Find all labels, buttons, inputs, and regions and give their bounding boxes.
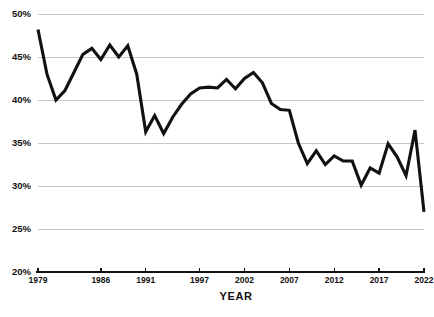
x-axis-tick-label: 1979 — [29, 275, 48, 285]
x-axis-tick-label: 1997 — [190, 275, 209, 285]
x-axis-tick-label: 1991 — [136, 275, 155, 285]
y-axis-tick-label: 50% — [12, 8, 32, 19]
y-axis-tick-label: 30% — [12, 180, 32, 191]
y-axis-tick-label: 45% — [12, 51, 32, 62]
x-axis-tick-label: 1986 — [91, 275, 110, 285]
x-axis-tick-label: 2017 — [370, 275, 389, 285]
y-axis-tick-label: 40% — [12, 94, 32, 105]
y-axis-tick-label: 25% — [12, 223, 32, 234]
line-chart: 50%45%40%35%30%25%20% 197919861991199720… — [0, 0, 434, 317]
x-axis-tick-label: 2012 — [325, 275, 344, 285]
x-axis-tick-label: 2022 — [415, 275, 434, 285]
x-axis-title: YEAR — [220, 290, 253, 302]
chart-canvas: 50%45%40%35%30%25%20% 197919861991199720… — [0, 0, 434, 317]
chart-background — [0, 0, 434, 317]
y-axis-tick-label: 35% — [12, 137, 32, 148]
x-axis-tick-label: 2007 — [280, 275, 299, 285]
x-axis-tick-label: 2002 — [235, 275, 254, 285]
